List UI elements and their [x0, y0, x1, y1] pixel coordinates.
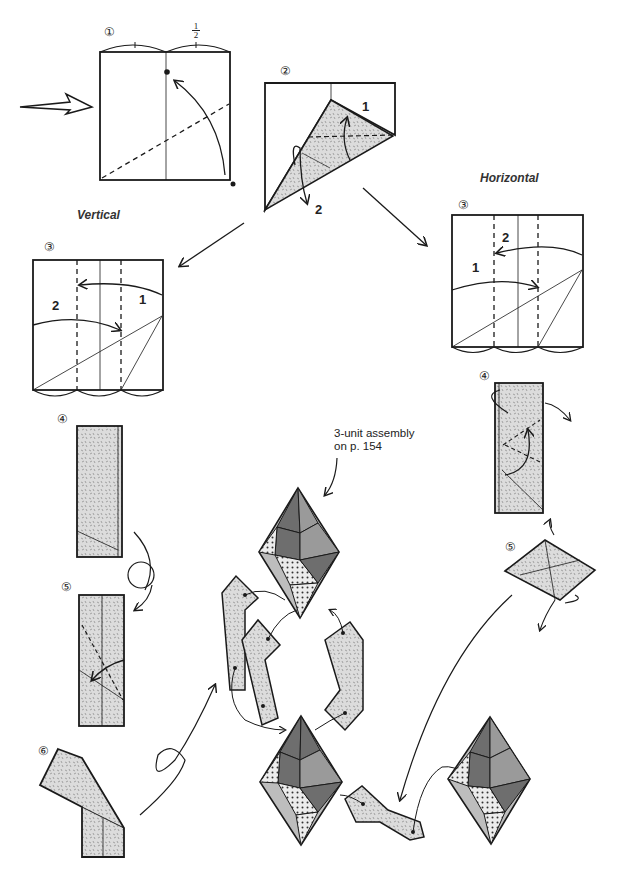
vertical-heading: Vertical: [77, 208, 120, 222]
horizontal-step4-strip: [492, 383, 570, 513]
vertical-step4-strip: [77, 426, 154, 610]
step1-fraction: 1 2: [191, 22, 201, 39]
horizontal-step3-fold-1: 1: [472, 260, 479, 275]
intro-arrow-icon: [20, 94, 92, 114]
horizontal-step4-label: ④: [479, 369, 490, 383]
assembly-note-line1: 3-unit assembly: [334, 427, 415, 440]
assembly-note-arrow: [325, 458, 337, 495]
horizontal-step3-label: ③: [458, 198, 469, 212]
horizontal-step3-square: [452, 215, 583, 353]
vertical-step6-unit: [40, 685, 215, 857]
assembly-note: 3-unit assembly on p. 154: [334, 427, 415, 453]
vertical-step3-square: [33, 260, 163, 396]
horizontal-step3-fold-2: 2: [502, 230, 509, 245]
horizontal-step5-label: ⑤: [505, 540, 516, 554]
bottom-center-octahedron: [260, 716, 342, 845]
vertical-step4-label: ④: [57, 412, 68, 426]
vertical-step3-fold-1: 1: [139, 292, 146, 307]
origami-diagram: [0, 0, 624, 870]
assembly-note-line2: on p. 154: [334, 440, 415, 453]
vertical-step6-label: ⑥: [38, 744, 49, 758]
step2-square: [265, 83, 395, 210]
step2-fold-1: 1: [362, 99, 369, 114]
fraction-numerator: 1: [191, 22, 201, 30]
assembly-unit-upper-left: [222, 576, 297, 725]
vertical-step3-fold-2: 2: [52, 298, 59, 313]
assembly-unit-bottom-middle: [340, 767, 465, 840]
step1-square: [100, 42, 236, 187]
vertical-step5-strip: [79, 595, 124, 726]
horizontal-branch-arrow: [363, 188, 426, 245]
step2-label: ②: [280, 64, 291, 78]
fraction-denominator: 2: [191, 31, 201, 39]
bottom-right-octahedron: [448, 717, 530, 844]
vertical-step5-label: ⑤: [61, 580, 72, 594]
step1-label: ①: [104, 25, 115, 39]
vertical-branch-arrow: [180, 223, 244, 266]
top-octahedron: [259, 488, 339, 618]
horizontal-heading: Horizontal: [480, 171, 539, 185]
vertical-step3-label: ③: [44, 240, 55, 254]
step2-fold-2: 2: [315, 202, 322, 217]
